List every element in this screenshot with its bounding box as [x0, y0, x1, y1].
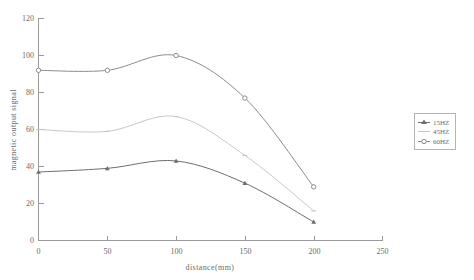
x-tick-labels: 0 50 100 150 200 250: [37, 247, 389, 256]
series-15hz: [36, 159, 316, 224]
y-tick-label: 0: [30, 236, 34, 245]
triangle-marker-icon: [311, 220, 316, 224]
line-chart: 0 20 40 60 80 100 120 0 50 100 150 200 2…: [0, 0, 474, 280]
chart-figure: 0 20 40 60 80 100 120 0 50 100 150 200 2…: [0, 0, 474, 280]
y-tick-label: 100: [22, 51, 34, 60]
axis-group: [39, 18, 383, 241]
y-tick-label: 60: [26, 125, 34, 134]
x-tick-label: 250: [377, 247, 389, 256]
y-tick-label: 40: [26, 162, 34, 171]
legend[interactable]: 15HZ 45HZ 60HZ: [415, 114, 456, 150]
x-tick-label: 100: [171, 247, 183, 256]
y-tick-label: 80: [26, 88, 34, 97]
y-axis-title: magnetic output signal: [9, 89, 18, 171]
circle-marker-icon: [105, 68, 109, 72]
y-tick-label: 20: [26, 199, 34, 208]
circle-marker-icon: [174, 53, 178, 57]
circle-marker-icon: [422, 139, 426, 143]
x-tick-label: 150: [240, 247, 252, 256]
series-60hz: [36, 53, 316, 189]
legend-label: 45HZ: [433, 128, 449, 136]
legend-label: 15HZ: [433, 119, 449, 127]
series-45hz: [36, 116, 316, 211]
y-tick-labels: 0 20 40 60 80 100 120: [22, 14, 34, 245]
legend-label: 60HZ: [433, 138, 449, 146]
x-tick-label: 50: [104, 247, 112, 256]
circle-marker-icon: [243, 96, 247, 100]
x-tick-label: 200: [309, 247, 321, 256]
x-tick-label: 0: [37, 247, 41, 256]
series-line: [39, 55, 314, 187]
x-tick-marks: [39, 236, 383, 241]
y-tick-label: 120: [22, 14, 34, 23]
circle-marker-icon: [312, 185, 316, 189]
x-axis-title: distance(mm): [186, 263, 235, 272]
series-layer: [36, 53, 316, 224]
series-line: [39, 160, 314, 222]
circle-marker-icon: [36, 68, 40, 72]
